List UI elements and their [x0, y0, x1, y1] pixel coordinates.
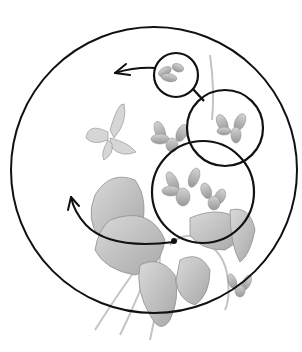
connector-line	[193, 89, 204, 101]
illustration	[0, 0, 302, 352]
leaves	[91, 177, 255, 326]
butterfly	[86, 104, 136, 160]
arrow-origin-dot	[171, 238, 177, 244]
left-arrow-icon	[115, 64, 155, 75]
diagram-canvas	[0, 0, 302, 352]
